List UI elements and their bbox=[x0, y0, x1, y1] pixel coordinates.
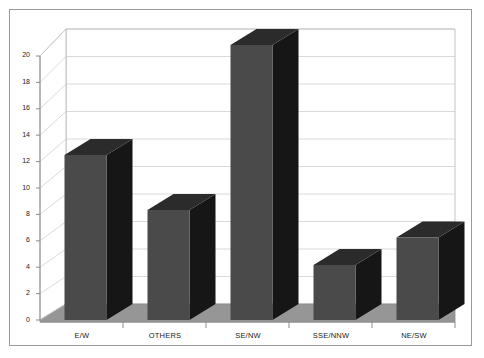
ytick-label: 16 bbox=[8, 104, 30, 111]
chart-figure: 20 18 16 14 12 10 8 6 4 2 0 E/W OTHERS S… bbox=[0, 0, 484, 358]
bar-ne-sw bbox=[397, 222, 465, 321]
bar-side-face bbox=[107, 139, 133, 320]
bar-sse-nnw bbox=[314, 249, 382, 320]
ytick-label: 2 bbox=[8, 289, 30, 296]
ytick-label: 0 bbox=[8, 316, 30, 323]
bar-se-nw bbox=[231, 29, 299, 320]
bar-side-face bbox=[273, 29, 299, 320]
plot-side-wall bbox=[40, 29, 66, 320]
bar-e-w bbox=[65, 139, 133, 320]
bar-front-face bbox=[314, 265, 356, 320]
xtick-label-3: SSE/NNW bbox=[291, 331, 371, 340]
bar-front-face bbox=[65, 155, 107, 320]
ytick-label: 12 bbox=[8, 157, 30, 164]
bar-chart-3d bbox=[0, 0, 484, 358]
ytick-label: 20 bbox=[8, 51, 30, 58]
xtick-label-4: NE/SW bbox=[374, 331, 454, 340]
ytick-label: 8 bbox=[8, 210, 30, 217]
ytick-label: 10 bbox=[8, 184, 30, 191]
bar-others bbox=[148, 194, 216, 320]
bar-side-face bbox=[190, 194, 216, 320]
ytick-label: 4 bbox=[8, 263, 30, 270]
ytick-label: 14 bbox=[8, 131, 30, 138]
ytick-label: 6 bbox=[8, 236, 30, 243]
bar-front-face bbox=[397, 238, 439, 321]
xtick-label-0: E/W bbox=[42, 331, 122, 340]
category-axis bbox=[40, 322, 455, 328]
bar-front-face bbox=[231, 45, 273, 320]
bar-side-face bbox=[439, 222, 465, 321]
value-axis bbox=[36, 56, 40, 320]
ytick-label: 18 bbox=[8, 78, 30, 85]
bar-front-face bbox=[148, 210, 190, 320]
xtick-label-1: OTHERS bbox=[125, 331, 205, 340]
xtick-label-2: SE/NW bbox=[208, 331, 288, 340]
